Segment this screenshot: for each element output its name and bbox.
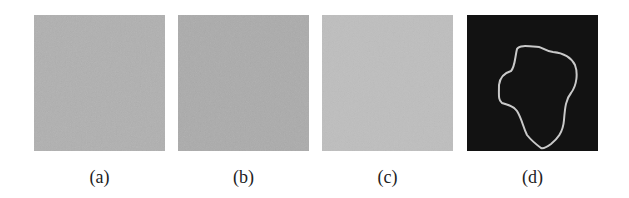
panel-a-image [34,15,165,151]
panel-d-image [467,15,598,151]
panel-c-image [322,15,453,151]
panel-b-label: (b) [178,166,309,188]
noise-texture [34,15,165,151]
panel-b-image [178,15,309,151]
panel-d-label: (d) [467,166,598,188]
noise-texture [178,15,309,151]
panel-c-label: (c) [322,166,453,188]
segmentation-result [467,15,598,151]
noise-texture [322,15,453,151]
panel-a-label: (a) [34,166,165,188]
